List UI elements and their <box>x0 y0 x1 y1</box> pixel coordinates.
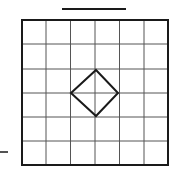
grid-diagram <box>0 0 177 179</box>
grid-lines <box>22 20 168 165</box>
